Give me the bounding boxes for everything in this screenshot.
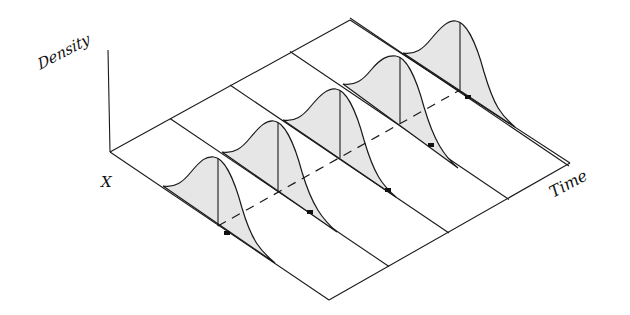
axes	[108, 20, 570, 300]
mean-dot	[385, 188, 391, 192]
time-axis	[329, 163, 570, 300]
density-over-time-diagram: Density X Time	[0, 0, 630, 315]
mean-dot	[465, 95, 471, 99]
mean-dot	[307, 210, 313, 214]
time-axis-label: Time	[546, 166, 591, 202]
mean-dot	[428, 143, 434, 147]
density-axis-label: Density	[35, 29, 93, 74]
x-axis-label: X	[100, 173, 113, 191]
density-axis	[108, 50, 110, 152]
density-curves	[163, 21, 515, 263]
mean-dot	[224, 231, 230, 235]
